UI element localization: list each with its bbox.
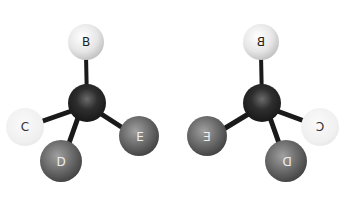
atom-d-label: D	[56, 155, 65, 169]
right-molecule: B C D E	[187, 24, 339, 182]
atom-e-label: E	[136, 130, 144, 144]
enantiomer-diagram: B C D E B C D E	[0, 0, 346, 198]
atom-c-label: C	[316, 120, 324, 134]
left-molecule: B C D E	[6, 24, 159, 182]
atom-d-label: D	[282, 155, 291, 169]
atom-b-label: B	[82, 35, 90, 49]
atom-center	[68, 84, 106, 122]
atom-c-label: C	[21, 120, 29, 134]
atom-e-label: E	[203, 130, 211, 144]
atom-b-label: B	[257, 35, 265, 49]
atom-center	[243, 84, 281, 122]
